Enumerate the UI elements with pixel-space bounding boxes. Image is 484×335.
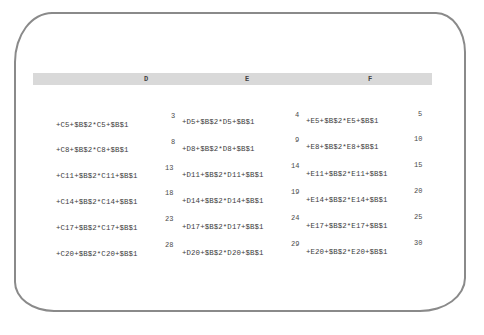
cell-f14[interactable]: +E14+$B$2*E14+$B$1 <box>306 196 388 204</box>
row-number: 30 <box>414 239 422 247</box>
row-number: 3 <box>171 112 175 120</box>
row-number: 8 <box>171 138 175 146</box>
row-number: 13 <box>165 164 173 172</box>
cell-f5[interactable]: +E5+$B$2*E5+$B$1 <box>306 117 379 125</box>
row-number: 28 <box>165 241 173 249</box>
cell-f8[interactable]: +E8+$B$2*E8+$B$1 <box>306 143 379 151</box>
column-header-bar: D E F <box>33 73 432 85</box>
cell-d20[interactable]: +C20+$B$2*C20+$B$1 <box>56 250 138 258</box>
row-number: 20 <box>414 187 422 195</box>
row-number: 10 <box>414 135 422 143</box>
column-header-f[interactable]: F <box>360 73 380 85</box>
cell-e17[interactable]: +D17+$B$2*D17+$B$1 <box>182 223 264 231</box>
cell-f11[interactable]: +E11+$B$2*E11+$B$1 <box>306 170 388 178</box>
cell-d14[interactable]: +C14+$B$2*C14+$B$1 <box>56 198 138 206</box>
cell-e14[interactable]: +D14+$B$2*D14+$B$1 <box>182 197 264 205</box>
row-number: 23 <box>165 215 173 223</box>
cell-d5[interactable]: +C5+$B$2*C5+$B$1 <box>56 121 129 129</box>
row-number: 18 <box>165 189 173 197</box>
column-header-e[interactable]: E <box>237 73 257 85</box>
cell-e20[interactable]: +D20+$B$2*D20+$B$1 <box>182 249 264 257</box>
column-header-d[interactable]: D <box>136 73 156 85</box>
row-number: 24 <box>291 214 299 222</box>
row-number: 5 <box>418 110 422 118</box>
crt-screen-frame <box>14 12 466 312</box>
cell-e8[interactable]: +D8+$B$2*D8+$B$1 <box>182 145 255 153</box>
row-number: 14 <box>291 162 299 170</box>
cell-d8[interactable]: +C8+$B$2*C8+$B$1 <box>56 146 129 154</box>
cell-d11[interactable]: +C11+$B$2*C11+$B$1 <box>56 172 138 180</box>
cell-f17[interactable]: +E17+$B$2*E17+$B$1 <box>306 222 388 230</box>
cell-e5[interactable]: +D5+$B$2*D5+$B$1 <box>182 118 255 126</box>
row-number: 29 <box>291 240 299 248</box>
cell-e11[interactable]: +D11+$B$2*D11+$B$1 <box>182 171 264 179</box>
row-number: 4 <box>295 111 299 119</box>
row-number: 9 <box>295 136 299 144</box>
row-number: 15 <box>414 161 422 169</box>
row-number: 19 <box>291 188 299 196</box>
row-number: 25 <box>414 213 422 221</box>
cell-f20[interactable]: +E20+$B$2*E20+$B$1 <box>306 248 388 256</box>
cell-d17[interactable]: +C17+$B$2*C17+$B$1 <box>56 224 138 232</box>
